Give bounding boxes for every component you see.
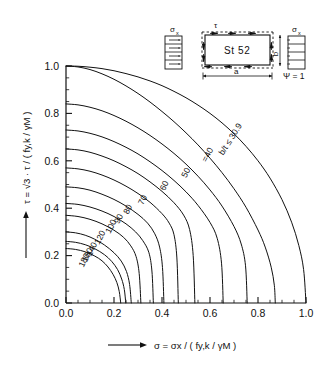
y-axis-tick-label: 0.4	[44, 202, 59, 214]
x-axis-ticks	[66, 297, 306, 303]
y-axis-tick-labels: 0.00.20.40.60.81.0	[44, 60, 59, 309]
y-axis-title: τ = √3 · τ / ( fy,k / γM )	[21, 112, 32, 204]
sigma-x-right-block	[287, 36, 305, 69]
sigma-x-left-subscript: x	[176, 30, 179, 36]
material-label: St 52	[224, 45, 250, 56]
x-axis-title-group: σ = σx / ( fy,k / γM )	[108, 340, 236, 351]
y-axis-tick-label: 0.8	[44, 107, 59, 119]
interaction-curve	[66, 130, 223, 303]
figure-root: σ x σ x	[0, 0, 322, 376]
interaction-curve	[66, 149, 195, 303]
x-axis-title: σ = σx / ( fy,k / γM )	[154, 340, 236, 351]
x-axis-tick-label: 0.4	[155, 307, 170, 319]
sigma-x-left-block	[165, 36, 182, 69]
tau-label: τ	[214, 21, 218, 30]
dimension-b	[279, 35, 281, 66]
y-axis-title-group: τ = √3 · τ / ( fy,k / γM )	[21, 112, 32, 258]
y-axis-tick-label: 0.2	[44, 249, 59, 261]
sigma-x-right-label: σ	[292, 25, 297, 34]
interaction-curve	[66, 66, 306, 303]
y-axis-tick-label: 0.0	[44, 297, 59, 309]
curve-label: b/t ≤ 30.9	[217, 121, 245, 157]
interaction-curves	[66, 66, 306, 303]
psi-label: Ψ = 1	[283, 71, 305, 81]
curve-label: 60	[158, 179, 171, 192]
curve-label: =40	[200, 146, 216, 164]
x-axis-tick-labels: 0.00.20.40.60.81.0	[59, 307, 314, 319]
plot-axes	[66, 66, 306, 303]
y-axis-tick-label: 0.6	[44, 155, 59, 167]
y-axis-tick-label: 1.0	[44, 60, 59, 72]
interaction-curve	[66, 187, 164, 303]
dimension-b-label: b	[271, 51, 280, 56]
x-axis-tick-label: 0.0	[59, 307, 74, 319]
curve-label: 70	[136, 193, 149, 206]
x-axis-title-arrow-head	[140, 342, 147, 348]
sigma-x-left-label: σ	[170, 25, 175, 34]
dimension-a-label: a	[234, 67, 239, 76]
y-axis-title-arrow-head	[23, 211, 29, 218]
x-axis-tick-label: 0.8	[251, 307, 266, 319]
sigma-x-right-subscript: x	[298, 30, 301, 36]
y-axis-ticks	[66, 66, 72, 303]
x-axis-tick-label: 0.6	[203, 307, 218, 319]
x-axis-tick-label: 0.2	[107, 307, 122, 319]
inset-plate-sketch: σ x σ x	[165, 21, 305, 81]
interaction-diagram-svg: σ x σ x	[0, 0, 322, 376]
interaction-curve	[66, 66, 275, 303]
x-axis-tick-label: 1.0	[299, 307, 314, 319]
